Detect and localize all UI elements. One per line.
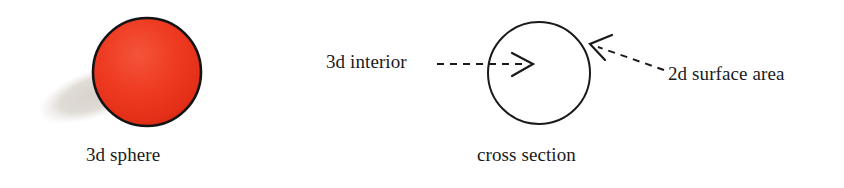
annotation-label-2d-surface-area: 2d surface area — [668, 64, 784, 83]
red-sphere — [93, 18, 201, 126]
surface-area-dashed-arrow — [590, 35, 664, 70]
annotation-label-3d-interior: 3d interior — [326, 52, 407, 71]
caption-3d-sphere: 3d sphere — [86, 145, 160, 164]
interior-dashed-arrow — [437, 53, 533, 76]
sphere-cross-section-figure: 3d interior 2d surface area 3d sphere cr… — [0, 0, 844, 188]
cross-section-circle — [488, 22, 590, 124]
caption-cross-section: cross section — [477, 145, 576, 164]
